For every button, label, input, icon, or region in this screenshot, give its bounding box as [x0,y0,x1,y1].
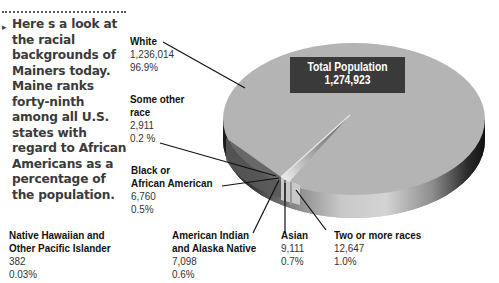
label-white-count: 1,236,014 [130,48,174,61]
label-native-hawaiian-count: 382 [9,255,111,268]
label-native-hawaiian-name2: Other Pacific Islander [9,242,111,255]
label-white: White 1,236,014 96.9% [130,35,181,74]
label-white-pct: 96.9% [130,61,174,74]
label-some-other-count: 2,911 [130,119,184,132]
label-two-or-more-name: Two or more races [334,229,421,242]
label-black-pct: 0.5% [131,203,213,216]
label-asian-name: Asian [281,229,308,242]
label-some-other-race: Some other race 2,911 0.2 % [130,93,193,145]
label-black: Black or African American 6,760 0.5% [131,164,226,216]
label-native-hawaiian-name1: Native Hawaiian and [9,229,111,242]
label-some-other-name1: Some other [130,93,184,106]
label-american-indian: American Indian and Alaska Native 7,098 … [172,229,270,281]
total-population-box: Total Population 1,274,923 [290,57,405,93]
label-asian: Asian 9,111 0.7% [281,229,312,268]
label-two-or-more-pct: 1.0% [334,255,421,268]
label-native-hawaiian-pct: 0.03% [9,268,111,281]
label-black-name2: African American [131,177,213,190]
label-two-or-more-count: 12,647 [334,242,421,255]
label-some-other-pct: 0.2 % [130,132,184,145]
label-american-indian-pct: 0.6% [172,268,256,281]
label-asian-pct: 0.7% [281,255,308,268]
label-black-count: 6,760 [131,190,213,203]
label-american-indian-name1: American Indian [172,229,256,242]
total-value: 1,274,923 [298,74,397,87]
label-asian-count: 9,111 [281,242,308,255]
label-native-hawaiian: Native Hawaiian and Other Pacific Island… [9,229,127,281]
label-american-indian-count: 7,098 [172,255,256,268]
label-two-or-more: Two or more races 12,647 1.0% [334,229,435,268]
label-black-name1: Black or [131,164,213,177]
label-american-indian-name2: and Alaska Native [172,242,256,255]
label-some-other-name2: race [130,106,184,119]
label-white-name: White [130,35,174,48]
